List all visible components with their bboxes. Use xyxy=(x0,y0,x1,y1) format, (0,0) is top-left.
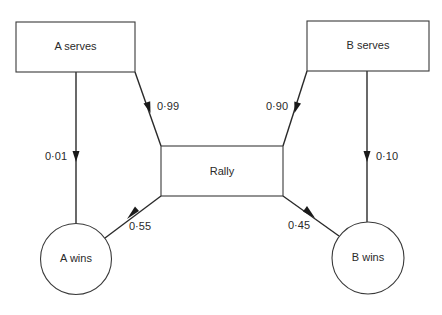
probability-label: 0·45 xyxy=(288,219,310,231)
arrow-down-icon xyxy=(364,151,371,162)
arrow-right-down-icon xyxy=(303,206,315,218)
node-label: A wins xyxy=(60,252,92,264)
probability-label: 0·55 xyxy=(129,220,151,232)
node-a-serves: A serves xyxy=(16,22,135,72)
edge-a-serves-to-a-wins xyxy=(73,72,80,224)
node-b-wins: B wins xyxy=(332,222,404,294)
node-label: Rally xyxy=(210,165,235,177)
arrow-down-icon xyxy=(294,102,301,114)
point-flow-diagram: A serves B serves Rally A wins B wins 0·… xyxy=(0,0,442,315)
node-label: B wins xyxy=(352,251,385,263)
node-a-wins: A wins xyxy=(41,224,112,295)
probability-label: 0·01 xyxy=(45,150,67,162)
edge-b-serves-to-b-wins xyxy=(364,71,371,222)
probability-label: 0·99 xyxy=(157,100,179,112)
node-b-serves: B serves xyxy=(307,21,429,71)
arrow-down-icon xyxy=(73,151,80,162)
arrow-down-icon xyxy=(144,101,151,113)
probability-label: 0·90 xyxy=(266,100,288,112)
probability-label: 0·10 xyxy=(376,150,398,162)
node-label: B serves xyxy=(347,39,390,51)
node-label: A serves xyxy=(54,40,97,52)
node-rally: Rally xyxy=(161,146,283,196)
